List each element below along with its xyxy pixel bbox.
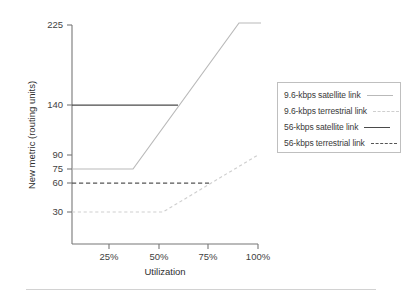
x-tick-label-50: 50% [149, 251, 169, 262]
y-tick-label-90: 90 [52, 149, 63, 160]
legend-label-96-terrestrial: 9.6-kbps terrestrial link [284, 106, 367, 116]
x-tick-label-75: 75% [198, 251, 218, 262]
y-axis-ticks: 225 140 90 75 60 30 [47, 19, 72, 217]
legend-item-56-terrestrial: 56-kbps terrestrial link [278, 135, 400, 151]
legend-swatch-56-satellite-icon [364, 123, 390, 131]
y-tick-label-225: 225 [47, 19, 63, 30]
legend-label-96-satellite: 9.6-kbps satellite link [284, 90, 361, 100]
y-tick-label-140: 140 [47, 99, 63, 110]
y-tick-label-75: 75 [52, 163, 63, 174]
x-axis-ticks: 25% 50% 75% 100% [99, 244, 270, 262]
bottom-divider [26, 289, 376, 290]
y-tick-label-60: 60 [52, 177, 63, 188]
y-axis-title: New metric (routing units) [26, 81, 37, 189]
legend-swatch-96-satellite-icon [367, 91, 393, 99]
legend-item-56-satellite: 56-kbps satellite link [278, 119, 400, 135]
legend-item-96-terrestrial: 9.6-kbps terrestrial link [278, 103, 400, 119]
x-axis-title: Utilization [144, 266, 185, 277]
x-tick-label-100: 100% [246, 251, 271, 262]
x-tick-label-25: 25% [99, 251, 119, 262]
legend-swatch-56-terrestrial-icon [371, 139, 397, 147]
legend-label-56-satellite: 56-kbps satellite link [284, 122, 358, 132]
y-tick-label-30: 30 [52, 206, 63, 217]
legend-swatch-96-terrestrial-icon [373, 107, 399, 115]
chart-legend: 9.6-kbps satellite link 9.6-kbps terrest… [277, 82, 401, 153]
legend-item-96-satellite: 9.6-kbps satellite link [278, 87, 400, 103]
legend-label-56-terrestrial: 56-kbps terrestrial link [284, 138, 365, 148]
series-line-96-satellite [72, 23, 261, 169]
